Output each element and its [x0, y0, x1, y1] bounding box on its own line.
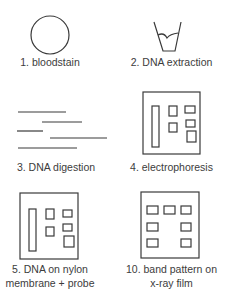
bloodstain-circle — [31, 16, 69, 54]
step-label-line: x-ray film — [118, 276, 225, 290]
step-label-x-ray-film: 10. band pattern on x-ray film — [118, 262, 225, 290]
step-label-line: membrane + probe — [0, 276, 100, 290]
film-band — [147, 239, 158, 247]
gel-band — [169, 106, 177, 116]
film-band — [164, 206, 175, 214]
gel-lane — [152, 106, 159, 147]
film-frame — [141, 192, 199, 258]
step-label-nylon-membrane: 5. DNA on nylon membrane + probe — [0, 262, 100, 290]
test-tube-liquid — [158, 33, 178, 38]
film-band — [181, 223, 191, 231]
step-label-dna-digestion: 3. DNA digestion — [0, 160, 112, 174]
gel-icon — [143, 92, 200, 154]
membrane-band — [46, 209, 54, 219]
test-tube-outline — [154, 22, 181, 51]
step-label-line: 10. band pattern on — [118, 262, 225, 276]
membrane-band — [63, 210, 72, 217]
membrane-band — [64, 236, 74, 247]
membrane-band — [63, 224, 72, 231]
dna-fragments-icon — [17, 112, 107, 148]
film-band — [181, 206, 191, 214]
nylon-membrane-icon — [20, 193, 78, 259]
film-band — [147, 206, 158, 214]
dna-fingerprinting-diagram — [0, 0, 225, 301]
film-band — [147, 223, 158, 231]
film-band — [181, 239, 191, 247]
test-tube-icon — [154, 22, 181, 51]
membrane-band — [46, 227, 54, 236]
step-label-electrophoresis: 4. electrophoresis — [118, 160, 225, 174]
bloodstain-icon — [31, 16, 69, 54]
step-label-dna-extraction: 2. DNA extraction — [118, 55, 225, 69]
gel-band — [186, 120, 195, 127]
step-label-bloodstain: 1. bloodstain — [0, 55, 100, 69]
gel-band — [185, 106, 195, 113]
gel-band — [187, 131, 196, 142]
step-label-line: 5. DNA on nylon — [0, 262, 100, 276]
membrane-lane — [29, 209, 36, 251]
gel-band — [169, 123, 177, 132]
x-ray-film-icon — [141, 192, 199, 258]
